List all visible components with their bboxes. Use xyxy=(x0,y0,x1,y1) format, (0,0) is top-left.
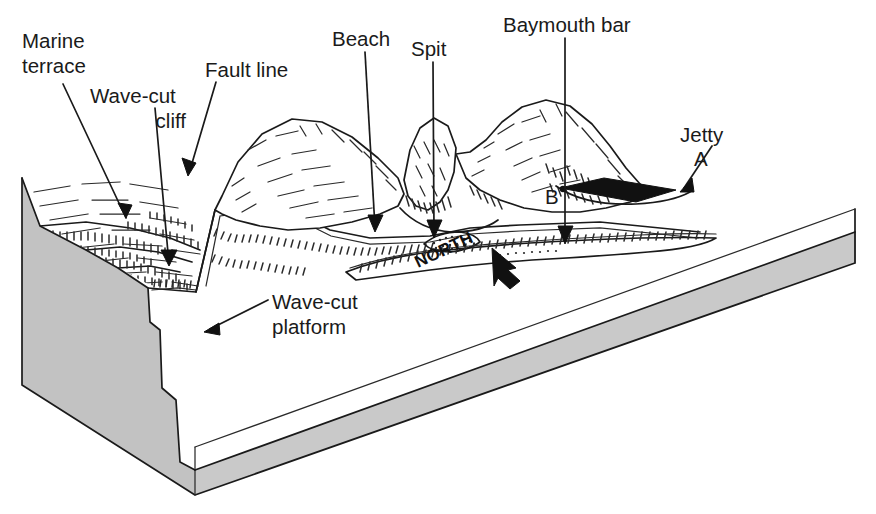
label-point-a: A xyxy=(694,147,708,170)
label-baymouth-bar: Baymouth bar xyxy=(503,13,631,36)
leader-spit xyxy=(433,62,434,232)
coastal-block-diagram: NORTH Marine terrace Wave-cut cliff Faul… xyxy=(0,0,876,514)
label-jetty: Jetty xyxy=(680,123,724,146)
headland-central xyxy=(215,119,404,230)
label-wave-cut-cliff-line2: cliff xyxy=(156,109,187,132)
label-wave-cut-platform-line2: platform xyxy=(272,315,346,338)
label-point-b: B xyxy=(545,185,559,208)
label-marine-terrace-line1: Marine xyxy=(22,29,85,52)
leader-fault-line xyxy=(190,82,216,170)
label-fault-line: Fault line xyxy=(205,58,288,81)
arrowhead-jetty xyxy=(680,178,694,192)
diagram-canvas: NORTH Marine terrace Wave-cut cliff Faul… xyxy=(0,0,876,514)
label-wave-cut-cliff-line1: Wave-cut xyxy=(90,84,176,107)
arrowhead-fault-line xyxy=(182,158,196,176)
label-marine-terrace-line2: terrace xyxy=(22,54,86,77)
label-spit: Spit xyxy=(411,37,447,60)
label-wave-cut-platform-line1: Wave-cut xyxy=(272,290,358,313)
headland-central-outline xyxy=(215,119,404,230)
label-beach: Beach xyxy=(332,27,390,50)
